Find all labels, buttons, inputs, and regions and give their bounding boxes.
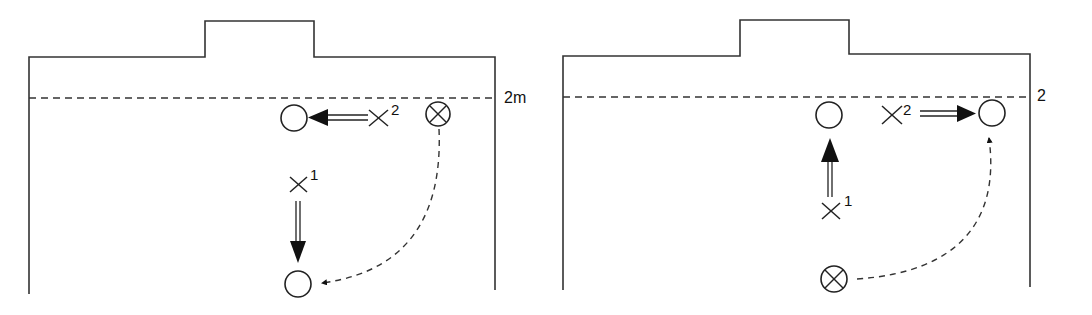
- court-outline: [563, 20, 1030, 290]
- target-position-circle: [816, 102, 842, 128]
- player-x2-marker: 2: [882, 101, 911, 124]
- target-position-circle: [281, 105, 307, 131]
- movement-arrow: [308, 109, 368, 126]
- pass-arrow: [857, 138, 991, 279]
- target-position-circle: [979, 100, 1005, 126]
- ball-carrier-icon: [426, 102, 450, 126]
- svg-text:2: 2: [391, 101, 399, 118]
- right-court-panel: 2 1 2: [563, 20, 1046, 292]
- distance-label: 2: [1037, 87, 1046, 104]
- svg-text:1: 1: [844, 192, 852, 209]
- distance-label: 2m: [504, 89, 526, 106]
- svg-text:1: 1: [310, 166, 318, 183]
- player-x1-marker: 1: [822, 192, 852, 219]
- ball-carrier-icon: [821, 266, 847, 292]
- movement-arrow: [290, 201, 306, 263]
- player-x1-marker: 1: [290, 166, 318, 192]
- player-x2-marker: 2: [369, 101, 399, 126]
- left-court-panel: 2m 2 1: [29, 21, 526, 297]
- movement-arrow: [920, 105, 976, 122]
- pass-arrow: [322, 129, 439, 283]
- movement-arrow: [821, 138, 839, 197]
- target-position-circle: [285, 271, 311, 297]
- svg-text:2: 2: [903, 101, 911, 118]
- drill-diagram: 2m 2 1: [0, 0, 1092, 315]
- court-outline: [29, 21, 495, 294]
